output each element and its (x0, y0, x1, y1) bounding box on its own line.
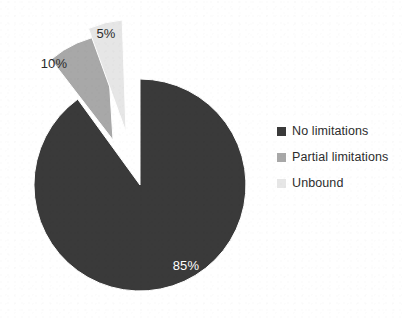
legend-label-unbound: Unbound (292, 176, 343, 190)
legend-swatch-icon-no-limitations (277, 127, 286, 136)
legend-label-no-limitations: No limitations (292, 124, 368, 138)
legend-swatch-icon-partial-limitations (277, 153, 286, 162)
pie-svg: 10% 5% 85% (0, 0, 270, 319)
legend-item-unbound[interactable]: Unbound (277, 170, 399, 196)
chart-legend: No limitations Partial limitations Unbou… (277, 118, 399, 196)
pie-label-partial-limitations: 10% (41, 56, 68, 71)
pie-chart-figure: 10% 5% 85% No limitations Partial limita… (0, 0, 402, 319)
pie-plot-area: 10% 5% 85% (0, 0, 270, 319)
legend-label-partial-limitations: Partial limitations (292, 150, 388, 164)
legend-item-no-limitations[interactable]: No limitations (277, 118, 399, 144)
legend-swatch-icon-unbound (277, 179, 286, 188)
pie-slice-no-limitations[interactable] (34, 79, 246, 291)
legend-item-partial-limitations[interactable]: Partial limitations (277, 144, 399, 170)
pie-label-no-limitations: 85% (173, 258, 200, 273)
pie-label-unbound: 5% (96, 26, 115, 41)
